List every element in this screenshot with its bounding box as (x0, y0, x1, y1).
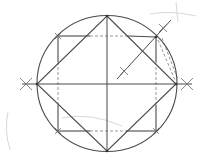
diagram-svg (0, 0, 205, 162)
vertex-dot (36, 83, 39, 86)
vertex-dot (106, 150, 109, 153)
octagon-construction-diagram (0, 0, 205, 162)
sketch-stroke (176, 2, 178, 22)
vertex-dot (155, 36, 158, 39)
vertex-dot (175, 83, 178, 86)
sketch-stroke (6, 112, 10, 150)
vertex-dot (106, 15, 109, 18)
sketch-stroke (150, 12, 196, 16)
sketch-stroke (62, 116, 122, 126)
square-edge (128, 36, 156, 37)
diameter-lines (22, 16, 192, 151)
